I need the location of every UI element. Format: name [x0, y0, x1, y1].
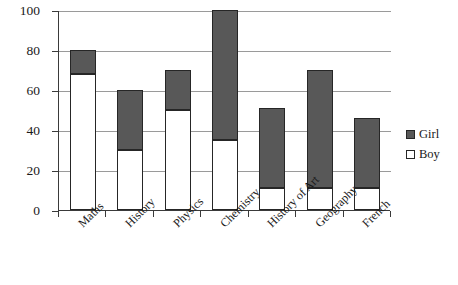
- x-label-history: History: [123, 196, 157, 230]
- legend-label: Girl: [419, 128, 439, 141]
- chart-page: 020406080100 MathsHistoryPhysicsChemistr…: [0, 0, 458, 285]
- x-label-maths: Maths: [76, 200, 106, 230]
- x-axis-labels: MathsHistoryPhysicsChemistryHistory of A…: [0, 0, 458, 285]
- chart-legend: GirlBoy: [406, 124, 458, 164]
- x-label-chemistry: Chemistry: [218, 186, 262, 230]
- x-label-french: French: [360, 197, 392, 229]
- x-label-physics: Physics: [171, 195, 205, 229]
- legend-swatch-icon-boy: [406, 150, 415, 159]
- legend-swatch-icon-girl: [406, 130, 415, 139]
- x-label-geography: Geography: [313, 183, 359, 229]
- legend-item-boy[interactable]: Boy: [406, 144, 458, 164]
- legend-label: Boy: [419, 148, 440, 161]
- legend-item-girl[interactable]: Girl: [406, 124, 458, 144]
